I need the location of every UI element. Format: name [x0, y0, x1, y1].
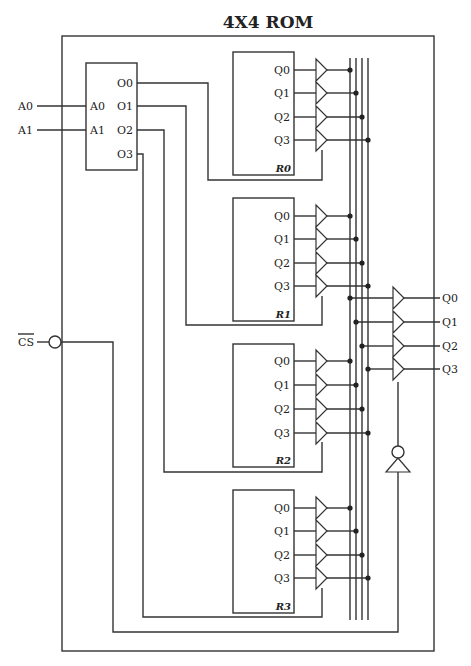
tristate-buffer-icon: [316, 497, 327, 519]
decoder-output-o1: O1: [117, 100, 133, 113]
decoder-output-o3: O3: [117, 148, 133, 161]
r1-q3-label: Q3: [274, 280, 290, 293]
tristate-buffer-icon: [316, 374, 327, 396]
r2-q3-label: Q3: [274, 427, 290, 440]
tristate-buffer-icon: [316, 422, 327, 444]
inverter-bubble: [392, 446, 404, 458]
r2-q2-label: Q2: [274, 403, 290, 416]
r2-q1-label: Q1: [274, 379, 290, 392]
tristate-buffer-icon: [316, 205, 327, 227]
r3-name-label: R3: [275, 601, 291, 612]
r0-q0-label: Q0: [274, 64, 290, 77]
r0-q2-label: Q2: [274, 111, 290, 124]
output-q2-label: Q2: [442, 340, 458, 353]
tristate-buffer-icon: [316, 350, 327, 372]
tristate-buffer-icon: [316, 567, 327, 589]
decoder-output-o2: O2: [117, 124, 133, 137]
r3-q0-label: Q0: [274, 502, 290, 515]
output-buffer-icon: [393, 287, 404, 309]
rom-diagram: 4X4 ROM A0 A1 A0 A1 O0 O1 O2 O3 CS Q0 Q1…: [0, 0, 471, 666]
r2-q0-label: Q0: [274, 355, 290, 368]
diagram-title: 4X4 ROM: [223, 12, 314, 32]
tristate-buffer-icon: [316, 544, 327, 566]
output-buffers: Q0 Q1 Q2 Q3: [347, 287, 458, 380]
tristate-buffer-icon: [316, 275, 327, 297]
cs-inverter-bubble: [49, 336, 61, 348]
r3-q2-label: Q2: [274, 549, 290, 562]
tristate-buffer-icon: [316, 59, 327, 81]
r0-q1-label: Q1: [274, 87, 290, 100]
tristate-buffer-icon: [316, 106, 327, 128]
decoder-output-o0: O0: [117, 77, 133, 90]
tristate-buffer-icon: [316, 129, 327, 151]
r1-q0-label: Q0: [274, 210, 290, 223]
tristate-buffer-icon: [316, 252, 327, 274]
input-cs-label: CS: [18, 336, 34, 349]
output-q1-label: Q1: [442, 316, 458, 329]
r1-name-label: R1: [275, 309, 291, 320]
decoder-input-a0: A0: [89, 100, 105, 113]
output-buffer-icon: [393, 358, 404, 380]
r2-name-label: R2: [275, 455, 291, 466]
decoder: A0 A1 O0 O1 O2 O3: [86, 63, 137, 170]
output-buffer-icon: [393, 335, 404, 357]
output-q0-label: Q0: [442, 292, 458, 305]
r1-q1-label: Q1: [274, 233, 290, 246]
input-a1-label: A1: [17, 124, 33, 137]
tristate-buffer-icon: [316, 398, 327, 420]
r0-q3-label: Q3: [274, 134, 290, 147]
tristate-buffer-icon: [316, 520, 327, 542]
tristate-buffer-icon: [316, 228, 327, 250]
r1-q2-label: Q2: [274, 257, 290, 270]
r3-q1-label: Q1: [274, 525, 290, 538]
r3-q3-label: Q3: [274, 572, 290, 585]
tristate-buffer-icon: [316, 82, 327, 104]
output-q3-label: Q3: [442, 363, 458, 376]
inverter-icon: [386, 458, 410, 472]
output-buffer-icon: [393, 311, 404, 333]
r0-name-label: R0: [275, 163, 291, 174]
input-a0-label: A0: [17, 100, 33, 113]
decoder-input-a1: A1: [89, 124, 105, 137]
